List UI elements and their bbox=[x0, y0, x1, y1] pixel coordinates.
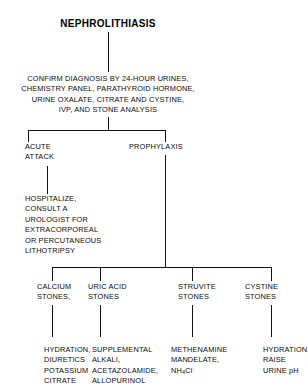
formula-suffix: Cl bbox=[185, 366, 192, 375]
stone-type-cystine: CYSTINE STONES bbox=[245, 282, 307, 303]
connector-cystine-to-treatment bbox=[271, 305, 272, 337]
formula-prefix: NH bbox=[171, 366, 182, 375]
connector-prophylaxis-stem bbox=[165, 155, 166, 267]
treatment-cystine: HYDRATION, RAISE URINE pH bbox=[263, 345, 308, 376]
connector-drop-uric-acid bbox=[100, 267, 101, 281]
acute-treatment-node: HOSPITALIZE, CONSULT A UROLOGIST FOR EXT… bbox=[25, 194, 145, 256]
acute-attack-node: ACUTE ATTACK bbox=[25, 142, 115, 163]
workup-node: CONFIRM DIAGNOSIS BY 24-HOUR URINES, CHE… bbox=[4, 74, 212, 116]
connector-split-bar-top bbox=[28, 130, 166, 131]
connector-drop-calcium bbox=[52, 267, 53, 281]
connector-struvite-to-treatment bbox=[192, 305, 193, 337]
page-title: NEPHROLITHIASIS bbox=[8, 18, 208, 29]
treatment-struvite-formula: NH4Cl bbox=[171, 366, 193, 375]
connector-split-bar-stones bbox=[52, 267, 272, 268]
connector-uric-acid-to-treatment bbox=[100, 305, 101, 337]
connector-drop-struvite bbox=[192, 267, 193, 281]
connector-workup-stem bbox=[108, 117, 109, 130]
connector-calcium-to-treatment bbox=[52, 305, 53, 337]
prophylaxis-node: PROPHYLAXIS bbox=[129, 142, 229, 152]
connector-acute-to-treatment bbox=[47, 166, 48, 194]
treatment-struvite: METHENAMINE MANDELATE, NH4Cl bbox=[171, 345, 247, 376]
connector-drop-acute bbox=[28, 130, 29, 142]
treatment-uric-acid: SUPPLEMENTAL ALKALI, ACETAZOLAMIDE, ALLO… bbox=[92, 345, 172, 387]
connector-drop-prophylaxis bbox=[165, 130, 166, 142]
stone-type-uric-acid: URIC ACID STONES bbox=[88, 282, 158, 303]
stone-type-struvite: STRUVITE STONES bbox=[178, 282, 248, 303]
treatment-struvite-line2: MANDELATE, bbox=[171, 355, 219, 364]
connector-title-to-workup bbox=[108, 32, 109, 72]
treatment-struvite-line1: METHENAMINE bbox=[171, 345, 227, 354]
nephrolithiasis-flowchart: NEPHROLITHIASIS CONFIRM DIAGNOSIS BY 24-… bbox=[0, 0, 308, 391]
connector-drop-cystine bbox=[271, 267, 272, 281]
formula-subscript: 4 bbox=[182, 369, 185, 375]
